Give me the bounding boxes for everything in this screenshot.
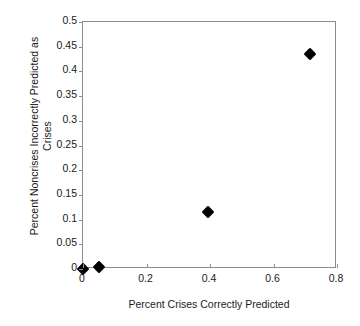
x-axis-tick-label: 0.8 <box>329 272 344 284</box>
y-axis-tick-label: 0.15 <box>57 188 77 199</box>
y-axis-tick <box>79 22 83 23</box>
scatter-chart-figure: Percent Noncrises Incorrectly Predicted … <box>0 0 360 326</box>
y-axis-tick-labels: 00.050.10.150.20.250.30.350.40.450.5 <box>36 21 77 268</box>
x-axis-tick <box>83 264 84 268</box>
y-axis-tick-label: 0.2 <box>62 163 77 174</box>
y-axis-tick <box>79 47 83 48</box>
y-axis-tick <box>79 96 83 97</box>
y-axis-tick-label: 0.35 <box>57 89 77 100</box>
x-axis-tick-label: 0.6 <box>265 272 280 284</box>
x-axis-tick <box>210 264 211 268</box>
x-axis-tick-label: 0.2 <box>138 272 153 284</box>
x-axis-tick <box>337 264 338 268</box>
y-axis-tick <box>79 121 83 122</box>
data-point-marker <box>93 260 106 273</box>
y-axis-tick <box>79 170 83 171</box>
x-axis-title: Percent Crises Correctly Predicted <box>82 298 336 311</box>
x-axis-tick-label: 0 <box>79 272 85 284</box>
data-point-marker <box>202 206 215 219</box>
x-axis-tick-labels: 00.20.40.60.8 <box>82 272 336 286</box>
y-axis-title-wrapper: Percent Noncrises Incorrectly Predicted … <box>0 0 1 1</box>
y-axis-tick-label: 0 <box>71 262 77 273</box>
y-axis-tick-label: 0.25 <box>57 139 77 150</box>
y-axis-tick <box>79 220 83 221</box>
x-axis-tick-label: 0.4 <box>202 272 217 284</box>
y-axis-tick-label: 0.1 <box>62 213 77 224</box>
y-axis-tick-label: 0.5 <box>62 15 77 26</box>
plot-area <box>82 21 336 268</box>
y-axis-tick-label: 0.4 <box>62 64 77 75</box>
y-axis-tick <box>79 146 83 147</box>
y-axis-tick <box>79 244 83 245</box>
x-axis-tick <box>274 264 275 268</box>
y-axis-tick <box>79 195 83 196</box>
data-point-marker <box>304 48 317 61</box>
x-axis-tick <box>147 264 148 268</box>
y-axis-tick <box>79 71 83 72</box>
y-axis-tick-label: 0.05 <box>57 237 77 248</box>
data-points-layer <box>83 22 335 267</box>
y-axis-tick-label: 0.45 <box>57 40 77 51</box>
y-axis-tick-label: 0.3 <box>62 114 77 125</box>
y-axis-tick <box>79 269 83 270</box>
